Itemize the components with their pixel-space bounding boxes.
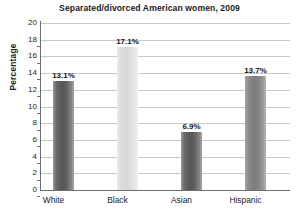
y-tick-label: 12 bbox=[3, 86, 37, 94]
y-tick-label: 10 bbox=[3, 103, 37, 111]
y-tick-label: 2 bbox=[3, 169, 37, 177]
y-tick-label: 4 bbox=[3, 153, 37, 161]
y-tick-label: 14 bbox=[3, 69, 37, 77]
bar-asian[interactable] bbox=[181, 132, 202, 190]
y-tick-label: 0 bbox=[3, 186, 37, 194]
gridline bbox=[41, 56, 290, 57]
bar-value-label: 13.1% bbox=[37, 71, 91, 80]
gridline bbox=[41, 40, 290, 41]
bar-value-label: 6.9% bbox=[165, 122, 219, 131]
gridline bbox=[41, 23, 290, 24]
bar-chart: Separated/divorced American women, 2009 … bbox=[0, 0, 299, 216]
bar-value-label: 13.7% bbox=[229, 66, 283, 75]
bar-black[interactable] bbox=[117, 47, 138, 190]
y-tick-label: 20 bbox=[3, 19, 37, 27]
bar-hispanic[interactable] bbox=[245, 76, 266, 190]
y-tick-label: 6 bbox=[3, 136, 37, 144]
x-axis-line bbox=[41, 190, 290, 191]
bar-white[interactable] bbox=[53, 81, 74, 190]
bar-value-label: 17.1% bbox=[101, 37, 155, 46]
x-tick-label-white: White bbox=[19, 195, 89, 205]
x-tick-label-black: Black bbox=[83, 195, 153, 205]
x-tick-label-hispanic: Hispanic bbox=[211, 195, 281, 205]
x-tick-label-asian: Asian bbox=[147, 195, 217, 205]
plot-area: 13.1% 17.1% 6.9% 13.7% bbox=[41, 23, 290, 190]
y-tick-label: 16 bbox=[3, 52, 37, 60]
y-axis-tick-labels: 20 18 16 14 12 10 8 6 4 2 0 bbox=[0, 23, 37, 190]
y-tick-label: 8 bbox=[3, 119, 37, 127]
y-tick-label: 18 bbox=[3, 36, 37, 44]
chart-title: Separated/divorced American women, 2009 bbox=[0, 3, 299, 13]
